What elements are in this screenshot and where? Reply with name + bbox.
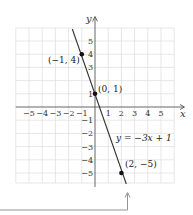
point-neg1-4 [80, 52, 85, 57]
svg-text:3: 3 [88, 63, 93, 72]
svg-text:−2: −2 [63, 109, 75, 118]
svg-text:−5: −5 [81, 169, 93, 178]
graph: x y −5 −4 −3 −2 −1 1 2 3 4 5 5 4 3 1 −1 … [0, 0, 193, 215]
equation-label: y = −3x + 1 [115, 133, 172, 143]
x-tick-labels: −5 −4 −3 −2 −1 1 2 3 4 5 [23, 109, 163, 118]
svg-text:1: 1 [106, 109, 111, 118]
svg-text:5: 5 [88, 37, 93, 46]
svg-text:−4: −4 [81, 156, 93, 165]
x-axis-label: x [180, 108, 186, 119]
callout-bracket [0, 193, 130, 211]
point-label-0-1: (0, 1) [98, 84, 122, 94]
svg-text:4: 4 [145, 109, 150, 118]
y-axis-label: y [85, 13, 92, 24]
svg-text:1: 1 [88, 90, 93, 99]
svg-text:−2: −2 [81, 129, 93, 138]
svg-text:−3: −3 [50, 109, 62, 118]
svg-text:−3: −3 [81, 143, 93, 152]
svg-text:−4: −4 [36, 109, 48, 118]
svg-text:−5: −5 [23, 109, 35, 118]
svg-text:−1: −1 [81, 116, 93, 125]
axes [16, 17, 185, 188]
svg-text:2: 2 [119, 109, 124, 118]
point-label-neg1-4: (−1, 4) [48, 55, 80, 65]
point-0-1 [93, 92, 98, 97]
point-label-2-neg5: (2, −5) [125, 159, 157, 169]
svg-text:3: 3 [132, 109, 137, 118]
point-2-neg5 [119, 171, 124, 176]
svg-text:5: 5 [158, 109, 163, 118]
svg-text:4: 4 [88, 50, 93, 59]
